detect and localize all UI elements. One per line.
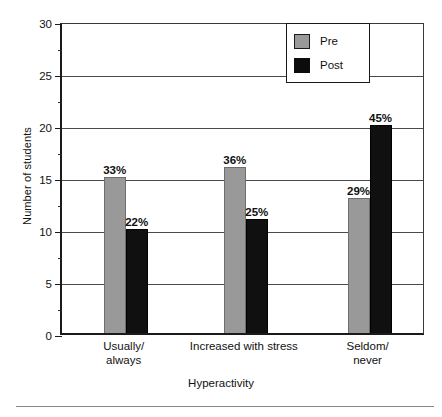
x-axis-title: Hyperactivity	[0, 377, 442, 389]
footer-divider	[16, 406, 434, 407]
bar-post-1: 22%	[126, 229, 148, 333]
x-axis-tick-label-line: Usually/	[103, 340, 144, 354]
y-axis-tick	[55, 128, 62, 129]
bar-value-label: 33%	[103, 164, 126, 176]
y-axis-tick-label: 20	[26, 122, 52, 134]
y-axis-tick	[55, 24, 62, 25]
x-axis-tick-label: Usually/always	[103, 340, 144, 367]
x-axis-tick-label: Increased with stress	[190, 340, 298, 354]
y-axis-minor-tick	[58, 102, 62, 103]
bar-value-label: 25%	[245, 206, 268, 218]
y-axis-tick-label: 25	[26, 70, 52, 82]
legend-swatch-post-icon	[294, 58, 310, 73]
bar-value-label: 22%	[125, 216, 148, 228]
legend-swatch-pre-icon	[294, 34, 310, 49]
y-axis-tick-label: 30	[26, 18, 52, 30]
y-axis-minor-tick	[58, 50, 62, 51]
legend-label-pre: Pre	[320, 35, 338, 47]
bar-value-label: 36%	[223, 154, 246, 166]
x-axis-tick-label-line: always	[103, 354, 144, 368]
legend-item-pre: Pre	[294, 29, 369, 53]
y-axis-tick	[55, 284, 62, 285]
bar-pre-1: 33%	[104, 177, 126, 333]
y-axis-tick-label: 5	[26, 278, 52, 290]
chart-legend: Pre Post	[286, 23, 370, 83]
y-axis-tick-label: 0	[26, 330, 52, 342]
bar-value-label: 45%	[369, 112, 392, 124]
legend-label-post: Post	[320, 59, 343, 71]
y-axis-minor-tick	[58, 206, 62, 207]
bar-post-2: 25%	[246, 219, 268, 333]
y-axis-tick	[55, 76, 62, 77]
bar-chart-figure: Number of students 05101520253033%22%36%…	[0, 0, 442, 417]
y-axis-minor-tick	[58, 154, 62, 155]
y-axis-tick	[55, 232, 62, 233]
bar-pre-3: 29%	[348, 198, 370, 333]
x-axis-tick-label-line: Increased with stress	[190, 340, 298, 354]
legend-item-post: Post	[294, 53, 369, 77]
y-axis-minor-tick	[58, 310, 62, 311]
y-axis-tick	[55, 180, 62, 181]
bar-pre-2: 36%	[224, 167, 246, 333]
x-axis-tick-label: Seldom/never	[346, 340, 388, 367]
y-axis-tick	[55, 336, 62, 337]
bar-post-3: 45%	[370, 125, 392, 333]
y-axis-minor-tick	[58, 258, 62, 259]
x-axis-tick-label-line: never	[346, 354, 388, 368]
y-axis-tick-label: 10	[26, 226, 52, 238]
y-axis-tick-label: 15	[26, 174, 52, 186]
bar-value-label: 29%	[347, 185, 370, 197]
x-axis-tick-label-line: Seldom/	[346, 340, 388, 354]
